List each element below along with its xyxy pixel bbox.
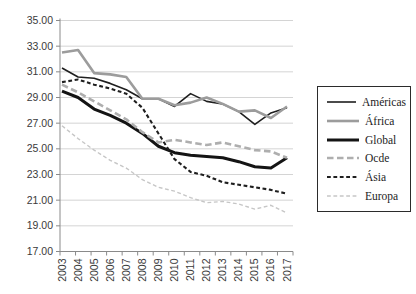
- x-axis-label: 2012: [200, 258, 212, 282]
- legend-item: Global: [327, 133, 406, 147]
- legend-label: África: [365, 115, 394, 127]
- legend-item: Américas: [327, 95, 406, 109]
- legend-line-sample: [327, 192, 359, 200]
- x-axis-label: 2011: [184, 258, 196, 281]
- legend-label: Europa: [365, 190, 398, 202]
- x-axis-label: 2005: [88, 258, 100, 282]
- legend-line-sample: [327, 154, 359, 162]
- x-axis-label: 2008: [136, 258, 148, 282]
- series-line-ocde: [62, 85, 287, 158]
- legend-line-sample: [327, 117, 359, 125]
- y-axis-label: 19.00: [27, 219, 53, 231]
- y-axis-label: 31.00: [27, 65, 53, 77]
- legend: AméricasÁfricaGlobalOcdeÁsiaEuropa: [317, 86, 411, 212]
- x-axis-label: 2009: [152, 258, 164, 282]
- series-line-global: [62, 91, 287, 168]
- legend-item: Ocde: [327, 151, 406, 165]
- y-axis-label: 17.00: [27, 245, 53, 257]
- y-axis-label: 27.00: [27, 117, 53, 129]
- legend-label: Ásia: [365, 171, 386, 183]
- x-axis-label: 2014: [232, 258, 244, 282]
- legend-line-sample: [327, 136, 359, 144]
- x-axis-label: 2010: [168, 258, 180, 282]
- x-axis-label: 2007: [120, 258, 132, 282]
- legend-line-sample: [327, 173, 359, 181]
- legend-line-sample: [327, 98, 356, 106]
- y-axis-label: 23.00: [27, 168, 53, 180]
- legend-label: Global: [365, 134, 396, 146]
- x-axis-label: 2016: [264, 258, 276, 282]
- legend-label: Américas: [362, 96, 406, 108]
- y-axis-label: 25.00: [27, 142, 53, 154]
- x-axis-label: 2006: [104, 258, 116, 282]
- x-axis-label: 2004: [72, 258, 84, 282]
- series-line-americas: [62, 68, 287, 124]
- legend-item: Europa: [327, 189, 406, 203]
- x-axis-label: 2013: [216, 258, 228, 282]
- x-axis-label: 2015: [248, 258, 260, 282]
- y-axis-label: 21.00: [27, 194, 53, 206]
- y-axis-label: 33.00: [27, 40, 53, 52]
- x-axis-label: 2003: [56, 258, 68, 282]
- y-axis-label: 29.00: [27, 91, 53, 103]
- chart-screenshot: 35.0033.0031.0029.0027.0025.0023.0021.00…: [0, 0, 416, 294]
- x-axis-label: 2017: [281, 258, 293, 282]
- legend-item: Ásia: [327, 170, 406, 184]
- legend-label: Ocde: [365, 152, 389, 164]
- legend-item: África: [327, 114, 406, 128]
- series-line-asia: [62, 80, 287, 194]
- y-axis-label: 35.00: [27, 14, 53, 26]
